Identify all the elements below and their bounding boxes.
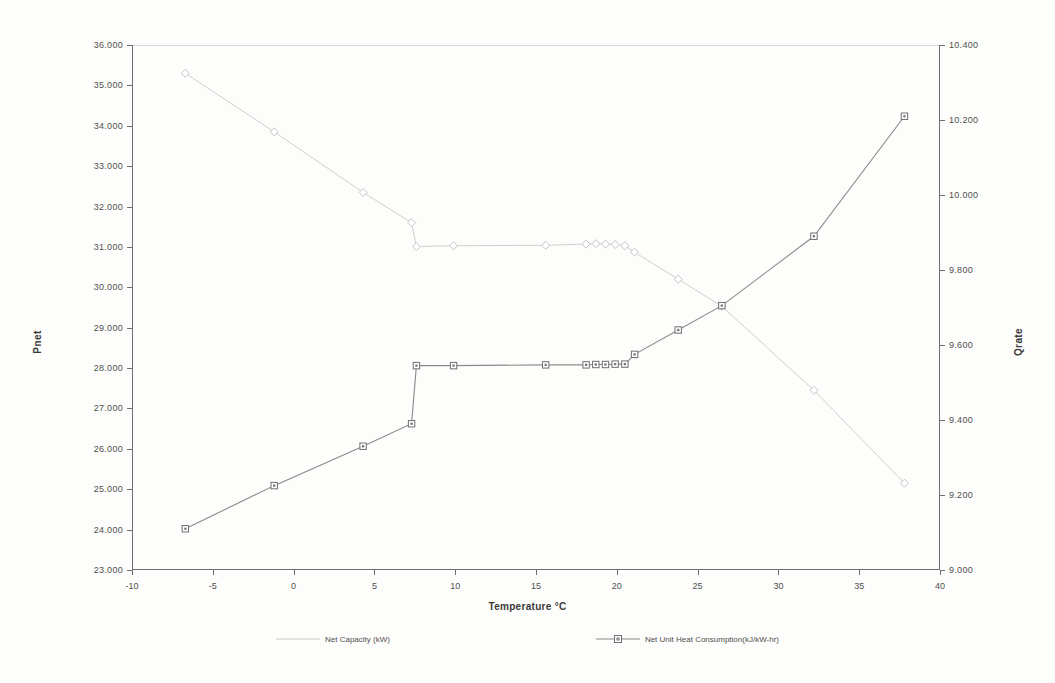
legend-swatch-1-icon — [596, 634, 640, 644]
series-1-marker — [360, 443, 366, 449]
series-1-marker — [602, 361, 608, 367]
y-axis-right-tick-label: 9.400 — [949, 415, 973, 425]
series-0-marker — [408, 219, 416, 227]
series-layer — [132, 45, 940, 570]
x-axis-tick — [778, 570, 779, 575]
series-1-marker — [271, 482, 277, 488]
y-axis-right-tick — [940, 45, 945, 46]
x-axis-tick — [698, 570, 699, 575]
series-0-marker — [601, 240, 609, 248]
x-axis-tick — [213, 570, 214, 575]
y-axis-left-tick-label: 29.000 — [94, 323, 123, 333]
y-axis-right-tick — [940, 345, 945, 346]
series-0-marker — [621, 242, 629, 250]
x-axis-tick — [455, 570, 456, 575]
x-axis-tick — [294, 570, 295, 575]
x-axis-title: Temperature °C — [0, 601, 1055, 612]
y-axis-right-tick-label: 9.600 — [949, 340, 973, 350]
y-axis-right-title: Qrate — [1013, 327, 1024, 355]
legend-swatch-0-icon — [276, 634, 320, 644]
x-axis-tick-label: 10 — [450, 581, 460, 591]
legend-label-1: Net Unit Heat Consumption(kJ/kW-hr) — [645, 635, 779, 644]
series-line-0 — [185, 73, 904, 483]
y-axis-left-tick-label: 24.000 — [94, 525, 123, 535]
series-0-marker — [674, 275, 682, 283]
x-axis-tick — [536, 570, 537, 575]
x-axis-tick-label: 15 — [531, 581, 541, 591]
y-axis-right-tick-label: 9.800 — [949, 265, 973, 275]
series-1-marker — [593, 361, 599, 367]
legend-entry-1[interactable]: Net Unit Heat Consumption(kJ/kW-hr) — [596, 634, 779, 644]
x-axis-tick-label: 30 — [773, 581, 783, 591]
series-0-marker — [270, 128, 278, 136]
y-axis-right-tick-label: 9.000 — [949, 565, 973, 575]
y-axis-left-tick-label: 33.000 — [94, 161, 123, 171]
x-axis-tick-label: -10 — [125, 581, 138, 591]
series-1-marker — [542, 362, 548, 368]
series-0-marker — [412, 243, 420, 251]
series-0-marker — [359, 188, 367, 196]
y-axis-left-tick-label: 32.000 — [94, 202, 123, 212]
y-axis-left-tick-label: 26.000 — [94, 444, 123, 454]
y-axis-left-tick-label: 25.000 — [94, 484, 123, 494]
series-1-marker — [413, 362, 419, 368]
y-axis-right-tick-label: 10.000 — [949, 190, 978, 200]
legend-label-0: Net Capacity (kW) — [325, 635, 390, 644]
series-0-marker — [542, 241, 550, 249]
x-axis-tick — [374, 570, 375, 575]
series-1-marker — [901, 113, 907, 119]
y-axis-right-tick — [940, 120, 945, 121]
x-axis-tick — [617, 570, 618, 575]
series-1-marker — [450, 362, 456, 368]
y-axis-right-tick — [940, 420, 945, 421]
x-axis-tick-label: 40 — [935, 581, 945, 591]
series-1-marker — [631, 351, 637, 357]
x-axis-tick — [859, 570, 860, 575]
series-0-marker — [631, 248, 639, 256]
plot-area: 23.00024.00025.00026.00027.00028.00029.0… — [132, 45, 940, 570]
x-axis-tick-label: 0 — [291, 581, 296, 591]
series-1-marker — [622, 361, 628, 367]
x-axis-tick-label: -5 — [209, 581, 217, 591]
y-axis-right-tick — [940, 495, 945, 496]
series-1-marker — [675, 327, 681, 333]
y-axis-left-tick-label: 35.000 — [94, 80, 123, 90]
y-axis-left-tick-label: 30.000 — [94, 282, 123, 292]
y-axis-right-tick-label: 10.400 — [949, 40, 978, 50]
x-axis-tick-label: 20 — [612, 581, 622, 591]
y-axis-left-tick-label: 23.000 — [94, 565, 123, 575]
series-0-marker — [450, 242, 458, 250]
x-axis-tick — [132, 570, 133, 575]
x-axis-tick-label: 25 — [693, 581, 703, 591]
chart-canvas: Pnet Qrate Temperature °C 23.00024.00025… — [0, 0, 1055, 683]
y-axis-left-tick-label: 28.000 — [94, 363, 123, 373]
y-axis-right-tick-label: 10.200 — [949, 115, 978, 125]
series-0-marker — [611, 241, 619, 249]
series-1-marker — [811, 233, 817, 239]
x-axis-tick-label: 35 — [854, 581, 864, 591]
y-axis-left-tick-label: 31.000 — [94, 242, 123, 252]
y-axis-left-tick-label: 36.000 — [94, 40, 123, 50]
series-1-marker — [719, 302, 725, 308]
y-axis-right-tick-label: 9.200 — [949, 490, 973, 500]
x-axis-tick — [940, 570, 941, 575]
series-0-marker — [592, 240, 600, 248]
series-line-1 — [185, 116, 904, 529]
y-axis-left-title: Pnet — [32, 330, 43, 353]
legend-entry-0[interactable]: Net Capacity (kW) — [276, 634, 390, 644]
series-1-marker — [408, 421, 414, 427]
series-0-marker — [181, 69, 189, 77]
series-1-marker — [182, 526, 188, 532]
series-1-marker — [612, 361, 618, 367]
chart-legend: Net Capacity (kW)Net Unit Heat Consumpti… — [0, 634, 1055, 644]
series-0-marker — [582, 240, 590, 248]
series-1-marker — [583, 362, 589, 368]
y-axis-right-tick — [940, 270, 945, 271]
y-axis-right-tick — [940, 195, 945, 196]
x-axis-tick-label: 5 — [372, 581, 377, 591]
y-axis-left-tick-label: 34.000 — [94, 121, 123, 131]
y-axis-left-tick-label: 27.000 — [94, 403, 123, 413]
